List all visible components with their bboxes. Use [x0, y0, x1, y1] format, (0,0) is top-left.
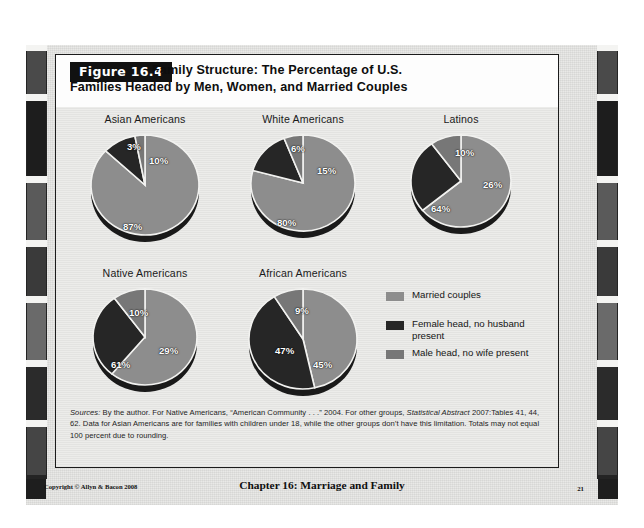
page-number: 21 [577, 485, 584, 492]
pie-graphic: 61%29%10% [70, 283, 220, 398]
pie-chart-title: Asian Americans [70, 113, 220, 125]
filmstrip-frame [598, 51, 617, 97]
filmstrip-frame [598, 247, 617, 299]
filmstrip-sprocket-hole [597, 296, 618, 303]
pie-chart-title: African Americans [228, 267, 378, 279]
legend-item-label: Married couples [412, 289, 540, 301]
filmstrip-sprocket-hole [26, 296, 47, 303]
pie-slice-label: 10% [149, 155, 168, 166]
pie-slice-label: 26% [483, 179, 502, 190]
pie-chart-title: Native Americans [70, 267, 220, 279]
filmstrip-frame [27, 303, 46, 363]
filmstrip-frame [27, 367, 46, 423]
pie-slice-label: 64% [431, 203, 450, 214]
pie-chart-3: Latinos64%26%10% [386, 113, 536, 241]
chart-legend: Married couplesFemale head, no husband p… [386, 291, 546, 378]
legend-item-label: Female head, no husband present [412, 318, 540, 343]
pie-graphic: 64%26%10% [386, 129, 536, 240]
legend-color-swatch [386, 292, 404, 301]
filmstrip-sprocket-hole [597, 240, 618, 247]
pie-graphic: 80%15%6% [228, 129, 378, 244]
pie-slice-label: 15% [317, 165, 336, 176]
figure-card: Figure 16.4 Family Structure: The Percen… [55, 54, 559, 468]
filmstrip-sprocket-hole [597, 45, 618, 51]
filmstrip-sprocket-hole [26, 176, 47, 183]
filmstrip-frame [598, 183, 617, 243]
pie-graphic: 47%45%9% [228, 283, 378, 402]
filmstrip-frame [598, 427, 617, 475]
filmstrip-sprocket-hole [26, 360, 47, 367]
filmstrip-right-decoration [597, 45, 618, 479]
filmstrip-sprocket-hole [26, 240, 47, 247]
source-italic-title: Statistical Abstract [407, 408, 470, 417]
pie-chart-4: Native Americans61%29%10% [70, 267, 220, 395]
source-line1: By the author. For Native Americans, “Am… [100, 408, 406, 417]
pie-slice-label: 61% [111, 359, 130, 370]
slide-canvas: Figure 16.4 Family Structure: The Percen… [26, 45, 618, 505]
legend-item: Female head, no husband present [386, 320, 546, 342]
pie-slice-label: 10% [129, 307, 148, 318]
chapter-title: Chapter 16: Marriage and Family [26, 479, 618, 491]
legend-color-swatch [386, 321, 404, 330]
pie-chart-1: Asian Americans87%10%3% [70, 113, 220, 241]
filmstrip-sprocket-hole [26, 94, 47, 101]
pie-slice-label: 3% [127, 141, 141, 152]
filmstrip-sprocket-hole [597, 176, 618, 183]
slide-footer: Copyright © Allyn & Bacon 2008 Chapter 1… [26, 479, 618, 501]
filmstrip-sprocket-hole [597, 360, 618, 367]
pie-chart-5: African Americans47%45%9% [228, 267, 378, 395]
filmstrip-frame [27, 101, 46, 179]
filmstrip-frame [598, 101, 617, 179]
filmstrip-frame [598, 303, 617, 363]
legend-item: Married couples [386, 291, 546, 313]
filmstrip-frame [598, 367, 617, 423]
legend-item-label: Male head, no wife present [412, 347, 540, 359]
pie-slice-label: 6% [291, 143, 305, 154]
pie-slice-label: 45% [313, 359, 332, 370]
source-label: Sources: [70, 408, 100, 417]
pie-slice-label: 87% [123, 221, 142, 232]
figure-title-line2: Families Headed by Men, Women, and Marri… [70, 79, 540, 96]
filmstrip-sprocket-hole [597, 94, 618, 101]
figure-title-bar: Figure 16.4 Family Structure: The Percen… [56, 55, 558, 107]
filmstrip-frame [27, 247, 46, 299]
filmstrip-sprocket-hole [26, 420, 47, 427]
pie-chart-2: White Americans80%15%6% [228, 113, 378, 241]
filmstrip-frame [27, 183, 46, 243]
pie-slice-label: 29% [159, 345, 178, 356]
filmstrip-sprocket-hole [597, 420, 618, 427]
legend-item: Male head, no wife present [386, 349, 546, 371]
pie-slice-label: 9% [295, 305, 309, 316]
figure-title-line1: Family Structure: The Percentage of U.S. [152, 63, 402, 77]
source-note: Sources: By the author. For Native Ameri… [70, 407, 546, 441]
filmstrip-sprocket-hole [26, 45, 47, 51]
filmstrip-frame [27, 51, 46, 97]
pie-graphic: 87%10%3% [70, 129, 220, 248]
pie-chart-title: White Americans [228, 113, 378, 125]
pie-slice-label: 47% [275, 345, 294, 356]
filmstrip-left-decoration [26, 45, 47, 479]
pie-slice-label: 80% [277, 217, 296, 228]
pie-chart-title: Latinos [386, 113, 536, 125]
pie-slice-label: 10% [455, 147, 474, 158]
legend-color-swatch [386, 350, 404, 359]
filmstrip-frame [27, 427, 46, 475]
figure-title: Family Structure: The Percentage of U.S.… [152, 62, 548, 79]
